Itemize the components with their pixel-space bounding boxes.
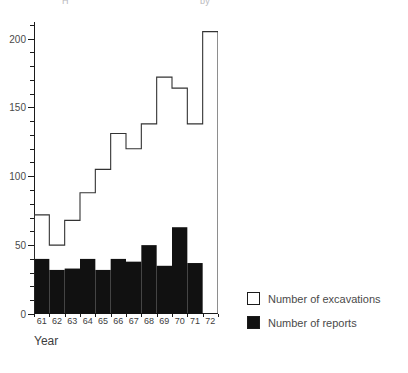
- x-tick-label-65: 65: [98, 316, 108, 326]
- x-tick-end: [218, 314, 219, 317]
- bar-reports-67: [126, 262, 141, 314]
- x-tick-label-62: 62: [52, 316, 62, 326]
- legend-item-reports: Number of reports: [247, 316, 381, 329]
- chart-legend: Number of excavations Number of reports: [247, 292, 381, 340]
- legend-label-reports: Number of reports: [268, 317, 357, 329]
- x-tick-label-67: 67: [129, 316, 139, 326]
- x-tick-label-63: 63: [67, 316, 77, 326]
- x-tick-label-68: 68: [144, 316, 154, 326]
- y-tick-label-100: 100: [9, 171, 26, 182]
- series-layer: [34, 22, 218, 314]
- bar-reports-71: [187, 263, 202, 314]
- x-tick-label-69: 69: [159, 316, 169, 326]
- x-tick-63: [65, 314, 66, 317]
- plot-area: 050100150200 616263646566676869707172: [34, 22, 218, 314]
- clipped-header-left: H: [62, 0, 69, 6]
- legend-swatch-filled-icon: [247, 316, 260, 329]
- x-tick-label-70: 70: [175, 316, 185, 326]
- x-tick-62: [49, 314, 50, 317]
- bar-reports-62: [49, 270, 64, 314]
- x-tick-69: [157, 314, 158, 317]
- x-tick-label-64: 64: [83, 316, 93, 326]
- x-tick-65: [95, 314, 96, 317]
- y-tick-label-50: 50: [15, 240, 26, 251]
- x-tick-66: [111, 314, 112, 317]
- bar-reports-68: [141, 245, 156, 314]
- x-tick-61: [34, 314, 35, 317]
- clipped-header-right: by: [200, 0, 210, 6]
- bar-reports-70: [172, 227, 187, 314]
- clipped-header-text: H by: [0, 0, 408, 7]
- chart-figure: H by 050100150200 6162636465666768697071…: [0, 0, 408, 373]
- bar-reports-65: [95, 270, 110, 314]
- x-tick-72: [203, 314, 204, 317]
- series-svg: [34, 22, 218, 314]
- bar-reports-63: [65, 269, 80, 314]
- x-tick-64: [80, 314, 81, 317]
- x-tick-70: [172, 314, 173, 317]
- legend-item-excavations: Number of excavations: [247, 292, 381, 305]
- x-tick-label-66: 66: [113, 316, 123, 326]
- legend-label-excavations: Number of excavations: [268, 293, 381, 305]
- bar-reports-66: [111, 259, 126, 314]
- bar-reports-61: [34, 259, 49, 314]
- x-tick-label-61: 61: [37, 316, 47, 326]
- x-tick-68: [141, 314, 142, 317]
- x-tick-label-71: 71: [190, 316, 200, 326]
- x-tick-67: [126, 314, 127, 317]
- legend-swatch-hollow-icon: [247, 292, 260, 305]
- y-tick-label-200: 200: [9, 33, 26, 44]
- bar-reports-69: [157, 266, 172, 314]
- x-tick-71: [187, 314, 188, 317]
- y-tick-label-150: 150: [9, 102, 26, 113]
- bar-reports-64: [80, 259, 95, 314]
- x-tick-label-72: 72: [205, 316, 215, 326]
- x-axis-title: Year: [34, 334, 58, 348]
- y-tick-label-0: 0: [20, 309, 26, 320]
